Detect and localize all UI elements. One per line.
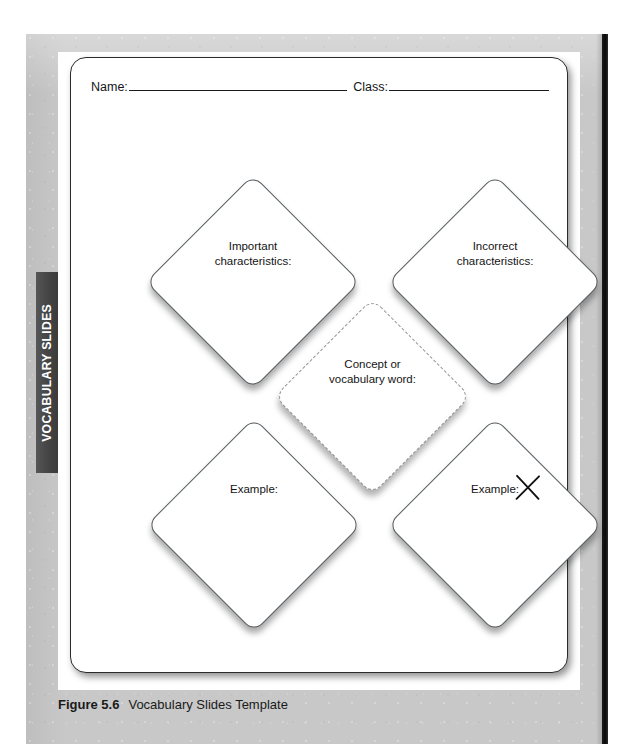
worksheet-card: Name: Class: Important characteristics: …	[70, 57, 568, 673]
diamond-label: Important characteristics:	[178, 207, 328, 357]
diamond-label-line1: Incorrect	[473, 240, 518, 252]
diamond-label-line2: characteristics:	[457, 255, 534, 267]
name-input[interactable]	[129, 78, 347, 91]
name-label: Name:	[91, 80, 128, 94]
diamond-label: Incorrect characteristics:	[420, 207, 570, 357]
diamond-label: Example:	[420, 450, 570, 600]
figure-number: Figure 5.6	[58, 697, 119, 712]
figure-caption: Figure 5.6Vocabulary Slides Template	[58, 697, 288, 712]
class-label: Class:	[353, 80, 388, 94]
diamond-label-line1: Important	[229, 240, 278, 252]
class-input[interactable]	[389, 78, 549, 91]
diamond-label-line1: Example:	[471, 483, 519, 495]
figure-screenshot: Name: Class: Important characteristics: …	[0, 0, 635, 744]
side-tab-label: VOCABULARY SLIDES	[40, 304, 54, 442]
figure-title: Vocabulary Slides Template	[128, 697, 287, 712]
diamond-label-line1: Concept or	[344, 358, 400, 370]
diamond-label-line1: Example:	[230, 483, 278, 495]
page-edge	[602, 34, 608, 744]
diamond-label: Example:	[179, 450, 329, 600]
cross-out-x-icon	[512, 471, 542, 501]
side-tab-vocabulary-slides: VOCABULARY SLIDES	[36, 272, 58, 473]
diamond-label: Concept or vocabulary word:	[304, 328, 441, 465]
diamond-label-line2: vocabulary word:	[329, 373, 416, 385]
diamond-label-line2: characteristics:	[215, 255, 292, 267]
worksheet-header: Name: Class:	[91, 78, 549, 100]
